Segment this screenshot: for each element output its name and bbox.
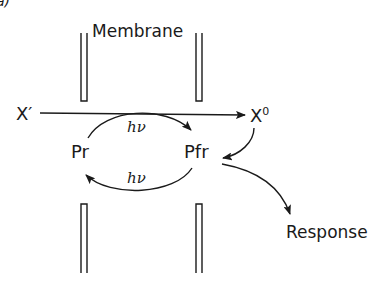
response-label: Response (286, 224, 368, 241)
x-prime-label: X′ (16, 105, 32, 123)
x-zero-superscript: 0 (262, 105, 269, 118)
xzero-to-pfr-arrow (223, 128, 254, 158)
membrane-label: Membrane (92, 23, 183, 40)
pfr-to-response-arrow (222, 164, 290, 214)
membrane-lower-right-bar (196, 204, 202, 273)
upper-light-label: hν (127, 120, 146, 135)
phytochrome-diagram: a) Membrane X′ X0 hν Pr Pfr hν Response (0, 0, 390, 284)
lower-light-label: hν (127, 171, 146, 186)
x-zero-label: X0 (250, 106, 269, 125)
pr-label: Pr (71, 143, 89, 161)
x-zero-base: X (250, 105, 262, 126)
panel-mark: a) (0, 0, 10, 8)
membrane-lower-left-bar (81, 204, 87, 273)
pfr-label: Pfr (184, 143, 209, 161)
membrane-upper-left-bar (81, 33, 87, 101)
membrane-upper-right-bar (196, 33, 202, 101)
